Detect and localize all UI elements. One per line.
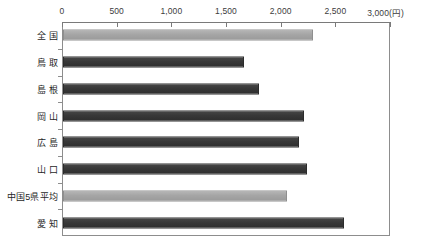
y-axis-tick (58, 102, 63, 103)
x-axis-tick-label: 3,000(円) (367, 6, 404, 18)
bar-row: 島 根 (0, 76, 421, 103)
bar-row: 愛 知 (0, 209, 421, 236)
bar (63, 57, 244, 68)
bar (63, 190, 287, 201)
bar-row: 岡 山 (0, 102, 421, 129)
y-axis-tick (58, 209, 63, 210)
bar (63, 30, 313, 41)
bar-row-label: 鳥 取 (37, 56, 58, 69)
bar-row-label: 愛 知 (37, 216, 58, 229)
bar-row-label: 全 国 (37, 29, 58, 42)
x-axis-tick-label: 1,500 (215, 6, 237, 16)
bar (63, 164, 307, 175)
x-axis-tick-label: 500 (109, 6, 123, 16)
bar (63, 217, 344, 228)
bar-rows: 全 国鳥 取島 根岡 山広 島山 口中国5県平均愛 知 (0, 22, 421, 236)
y-axis-tick (58, 156, 63, 157)
bar-row-label: 中国5県平均 (7, 189, 58, 202)
bar (63, 137, 299, 148)
y-axis-tick (58, 129, 63, 130)
bar-row-label: 広 島 (37, 136, 58, 149)
x-axis-tick-label: 0 (60, 6, 65, 16)
x-axis-tick-label: 2,000 (270, 6, 292, 16)
bar-row: 鳥 取 (0, 49, 421, 76)
x-axis-tick-label: 1,000 (160, 6, 182, 16)
bar (63, 110, 304, 121)
y-axis-tick (58, 183, 63, 184)
bar-row: 中国5県平均 (0, 183, 421, 210)
bar-row: 広 島 (0, 129, 421, 156)
bar-row: 山 口 (0, 156, 421, 183)
bar-row-label: 島 根 (37, 82, 58, 95)
bar (63, 83, 259, 94)
bar-row: 全 国 (0, 22, 421, 49)
x-axis-tick-label: 2,500 (324, 6, 346, 16)
y-axis-tick (58, 76, 63, 77)
bar-row-label: 岡 山 (37, 109, 58, 122)
bar-row-label: 山 口 (37, 163, 58, 176)
horizontal-bar-chart: 05001,0001,5002,0002,5003,000(円) 全 国鳥 取島… (0, 0, 421, 249)
y-axis-tick (58, 49, 63, 50)
